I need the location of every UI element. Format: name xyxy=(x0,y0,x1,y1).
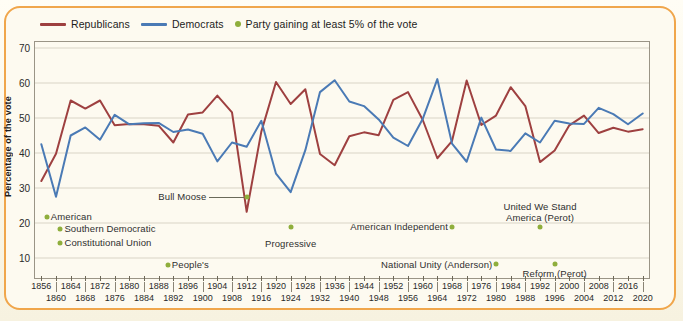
x-axis-label-separator xyxy=(85,282,86,292)
x-axis-tick-mark xyxy=(320,276,321,281)
x-axis-tick-mark xyxy=(41,276,42,281)
x-axis-tick-label: 1868 xyxy=(75,293,95,303)
annotation-leader-line-bull-moose xyxy=(209,197,243,198)
x-axis-label-separator xyxy=(320,282,321,292)
x-axis-tick-label: 2016 xyxy=(618,281,638,291)
x-axis-label-separator xyxy=(203,282,204,292)
x-axis-tick-label: 1884 xyxy=(134,293,154,303)
x-axis-tick-label: 1968 xyxy=(442,281,462,291)
x-axis-tick-label: 1940 xyxy=(339,293,359,303)
x-axis-tick-mark xyxy=(159,276,160,281)
x-axis-tick-mark xyxy=(628,276,629,281)
x-axis-tick-mark xyxy=(452,276,453,281)
x-axis-tick-mark xyxy=(511,276,512,281)
x-axis-tick-mark xyxy=(203,276,204,281)
x-axis-tick-mark xyxy=(555,276,556,281)
x-axis-label-separator xyxy=(613,282,614,292)
legend-label-third-party: Party gaining at least 5% of the vote xyxy=(246,18,418,30)
annotation-label-american-independent: American Independent xyxy=(350,221,448,232)
x-axis-tick-label: 2000 xyxy=(559,281,579,291)
x-axis-tick-mark xyxy=(335,276,336,281)
annotation-label-bull-moose: Bull Moose xyxy=(158,191,206,202)
x-axis-label-separator xyxy=(584,282,585,292)
third-party-marker-bull-moose xyxy=(244,195,249,200)
x-axis-tick-mark xyxy=(584,276,585,281)
y-axis-tick-label: 40 xyxy=(19,148,30,159)
x-axis-tick-label: 1928 xyxy=(295,281,315,291)
x-axis-tick-mark xyxy=(599,276,600,281)
x-axis-tick-mark xyxy=(291,276,292,281)
x-axis-tick-mark xyxy=(569,276,570,281)
x-axis-tick-label: 1872 xyxy=(90,281,110,291)
x-axis-tick-label: 1952 xyxy=(383,281,403,291)
x-axis-label-separator xyxy=(525,282,526,292)
x-axis-label-separator xyxy=(555,282,556,292)
x-axis-label-separator xyxy=(115,282,116,292)
x-axis-tick-label: 2012 xyxy=(603,293,623,303)
x-axis-tick-mark xyxy=(305,276,306,281)
third-party-marker-reform-perot xyxy=(552,261,557,266)
x-axis-tick-label: 1864 xyxy=(61,281,81,291)
x-axis-tick-mark xyxy=(71,276,72,281)
x-axis-tick-mark xyxy=(129,276,130,281)
annotation-label-constitutional-union: Constitutional Union xyxy=(64,237,151,248)
third-party-marker-american-independent xyxy=(450,225,455,230)
annotation-label-united-we-stand-america-perot: United We Stand America (Perot) xyxy=(503,201,576,223)
x-axis-label-separator xyxy=(261,282,262,292)
x-axis-tick-mark xyxy=(408,276,409,281)
x-axis-tick-label: 1920 xyxy=(266,281,286,291)
x-axis-tick-mark xyxy=(364,276,365,281)
third-party-marker-constitutional-union xyxy=(58,240,63,245)
x-axis-tick-label: 1924 xyxy=(281,293,301,303)
x-axis-tick-mark xyxy=(100,276,101,281)
annotation-label-peoples: People's xyxy=(172,259,209,270)
plot-area: 10203040506070 AmericanSouthern Democrat… xyxy=(34,41,650,279)
y-axis-tick-label: 50 xyxy=(19,113,30,124)
x-axis-tick-label: 1992 xyxy=(530,281,550,291)
y-axis-tick-label: 10 xyxy=(19,253,30,264)
x-axis-tick-mark xyxy=(261,276,262,281)
x-axis-tick-label: 1892 xyxy=(163,293,183,303)
x-axis-tick-label: 1900 xyxy=(193,293,213,303)
x-axis-tick-label: 1988 xyxy=(515,293,535,303)
y-axis-tick-label: 30 xyxy=(19,183,30,194)
x-axis-tick-label: 1964 xyxy=(427,293,447,303)
x-axis-label-separator xyxy=(232,282,233,292)
x-axis-label-separator xyxy=(408,282,409,292)
x-axis-tick-mark xyxy=(423,276,424,281)
x-axis-tick-mark xyxy=(247,276,248,281)
x-axis-tick-mark xyxy=(276,276,277,281)
x-axis-tick-label: 1972 xyxy=(457,293,477,303)
x-axis-tick-label: 1948 xyxy=(369,293,389,303)
x-axis-tick-mark xyxy=(217,276,218,281)
x-axis-tick-label: 1996 xyxy=(545,293,565,303)
third-party-marker-american xyxy=(44,214,49,219)
chart-figure: Republicans Democrats Party gaining at l… xyxy=(0,0,683,321)
x-axis-tick-mark xyxy=(393,276,394,281)
x-axis-tick-mark xyxy=(232,276,233,281)
x-axis-tick-mark xyxy=(379,276,380,281)
annotation-label-progressive: Progressive xyxy=(265,238,316,249)
x-axis-tick-label: 2008 xyxy=(589,281,609,291)
third-party-marker-peoples xyxy=(165,263,170,268)
y-axis-tick-label: 60 xyxy=(19,78,30,89)
x-axis-tick-label: 1856 xyxy=(31,281,51,291)
x-axis-label-separator xyxy=(291,282,292,292)
x-axis-label-separator xyxy=(56,282,57,292)
x-axis-tick-label: 1896 xyxy=(178,281,198,291)
x-axis-label-separator xyxy=(144,282,145,292)
x-axis-label-separator xyxy=(643,282,644,292)
chart-legend: Republicans Democrats Party gaining at l… xyxy=(40,16,417,32)
republican-line-swatch xyxy=(40,23,66,26)
x-axis-tick-label: 1980 xyxy=(486,293,506,303)
x-axis-label-separator xyxy=(349,282,350,292)
x-axis-label-separator xyxy=(173,282,174,292)
x-axis-tick-label: 1860 xyxy=(46,293,66,303)
x-axis-label-separator xyxy=(467,282,468,292)
x-axis-tick-mark xyxy=(613,276,614,281)
legend-label-democrats: Democrats xyxy=(172,18,224,30)
x-axis-label-separator xyxy=(496,282,497,292)
third-party-marker-progressive xyxy=(288,225,293,230)
x-axis-tick-mark xyxy=(540,276,541,281)
y-axis-tick-label: 70 xyxy=(19,43,30,54)
